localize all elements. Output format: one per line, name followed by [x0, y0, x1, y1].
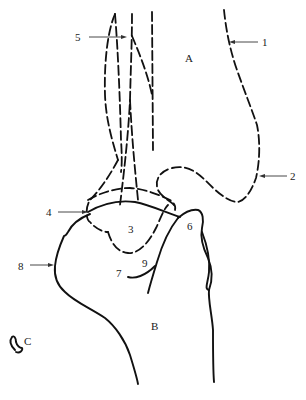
process-inner-line	[202, 232, 209, 290]
label-7: 7	[116, 267, 122, 279]
label-8: 8	[18, 260, 24, 272]
region-label-c: C	[24, 335, 31, 347]
label-3: 3	[128, 223, 134, 235]
dashed-outline-group	[87, 10, 260, 253]
dashed-middle-branch	[132, 36, 152, 95]
dashed-shaft-left	[87, 160, 118, 232]
label-1: 1	[262, 36, 268, 48]
region-label-a: A	[185, 52, 193, 64]
process-outline-6	[178, 210, 214, 382]
text-labels: 5 A 1 2 4 3 6 8 9 7 B C	[18, 31, 296, 347]
label-5: 5	[75, 31, 81, 43]
dashed-loop-left-inner	[115, 14, 122, 172]
label-6: 6	[187, 220, 193, 232]
head-outline-8	[55, 214, 138, 384]
dashed-curve-1	[157, 10, 259, 206]
arrowhead-8	[48, 263, 54, 267]
arrowhead-2	[259, 174, 265, 178]
label-2: 2	[290, 170, 296, 182]
anatomical-diagram: 5 A 1 2 4 3 6 8 9 7 B C	[0, 0, 306, 400]
dashed-right-line	[152, 12, 153, 150]
rim-line-4	[88, 201, 180, 217]
dashed-oval-3	[108, 205, 168, 253]
label-4: 4	[46, 206, 52, 218]
region-label-b: B	[151, 320, 158, 332]
label-9: 9	[142, 257, 148, 269]
glyph-c-mark	[11, 336, 23, 352]
arrowhead-5	[121, 35, 127, 39]
inner-line-6-9	[148, 218, 178, 293]
dashed-shaft-right	[130, 100, 138, 200]
